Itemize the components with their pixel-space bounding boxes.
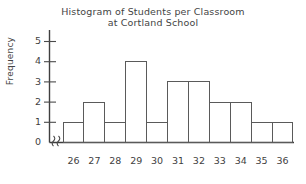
bar-34	[230, 102, 251, 142]
y-tick-label-0: 0	[27, 136, 41, 147]
axis-break-icon	[52, 136, 60, 146]
bar-33	[209, 102, 230, 142]
x-tick-label-28: 28	[104, 155, 126, 166]
bar-36	[272, 122, 293, 142]
bar-31	[168, 82, 189, 143]
y-tick-label-4: 4	[27, 55, 41, 66]
x-tick-label-29: 29	[125, 155, 147, 166]
y-tick-label-5: 5	[27, 35, 41, 46]
bar-26	[63, 122, 84, 142]
y-tick-label-1: 1	[27, 116, 41, 127]
bar-27	[84, 102, 105, 142]
x-tick-label-27: 27	[83, 155, 105, 166]
x-tick-label-26: 26	[63, 155, 85, 166]
bar-series	[63, 62, 293, 143]
x-tick-label-35: 35	[251, 155, 273, 166]
bar-28	[105, 122, 126, 142]
x-tick-label-36: 36	[272, 155, 294, 166]
y-tick-label-2: 2	[27, 96, 41, 107]
y-tick-label-3: 3	[27, 76, 41, 87]
x-tick-label-31: 31	[167, 155, 189, 166]
bar-32	[188, 82, 209, 143]
x-tick-label-30: 30	[146, 155, 168, 166]
histogram-chart: Histogram of Students per Classroom at C…	[0, 0, 306, 184]
bar-29	[126, 62, 147, 143]
x-tick-label-32: 32	[188, 155, 210, 166]
bar-30	[147, 122, 168, 142]
x-tick-label-33: 33	[209, 155, 231, 166]
bar-35	[251, 122, 272, 142]
x-tick-label-34: 34	[230, 155, 252, 166]
